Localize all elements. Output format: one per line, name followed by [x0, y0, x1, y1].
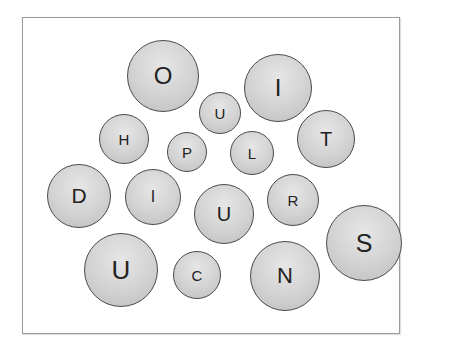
bubble-letter: C [192, 267, 203, 284]
bubble-s: S [326, 205, 402, 281]
bubble-o: O [127, 40, 199, 112]
bubble-letter: H [119, 131, 130, 148]
bubble-letter: L [248, 145, 256, 162]
bubble-letter: S [356, 229, 373, 258]
bubble-letter: R [288, 192, 299, 209]
bubble-letter: U [217, 203, 231, 226]
bubble-r: R [267, 174, 319, 226]
bubble-letter: N [277, 263, 293, 289]
bubble-t: T [297, 110, 355, 168]
bubble-i: I [244, 54, 312, 122]
bubble-letter: U [215, 105, 226, 122]
bubble-l: L [230, 131, 274, 175]
bubble-u: U [84, 233, 158, 307]
bubble-c: C [173, 251, 221, 299]
bubble-letter: P [182, 144, 192, 161]
bubble-letter: I [275, 74, 282, 102]
bubble-u: U [199, 92, 241, 134]
bubble-letter: T [320, 128, 332, 151]
bubble-p: P [167, 132, 207, 172]
bubble-i: I [125, 169, 181, 225]
bubble-letter: D [71, 184, 86, 208]
bubble-letter: I [151, 188, 155, 206]
bubble-d: D [47, 164, 111, 228]
bubble-n: N [250, 241, 320, 311]
bubble-h: H [99, 114, 149, 164]
bubble-letter: U [112, 255, 131, 286]
bubble-letter: O [154, 62, 173, 90]
bubble-u: U [194, 184, 254, 244]
